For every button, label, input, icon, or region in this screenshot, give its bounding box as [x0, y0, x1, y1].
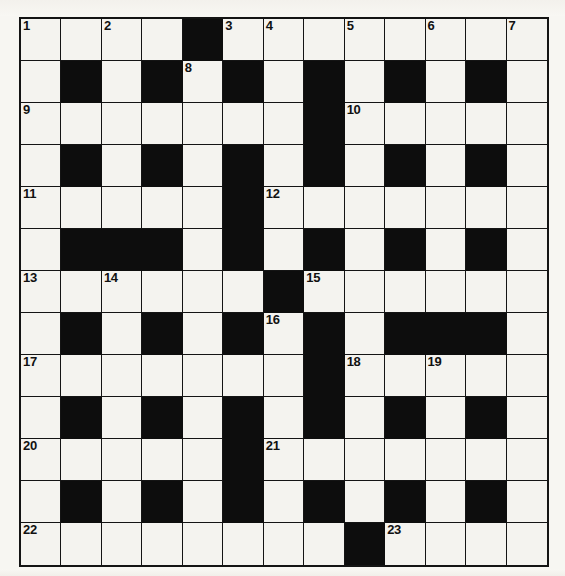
- grid-letter-cell[interactable]: [102, 397, 142, 439]
- grid-letter-cell[interactable]: [507, 61, 547, 103]
- grid-letter-cell[interactable]: [466, 439, 506, 481]
- grid-letter-cell[interactable]: 11: [21, 187, 61, 229]
- grid-letter-cell[interactable]: [385, 271, 425, 313]
- grid-letter-cell[interactable]: [264, 103, 304, 145]
- grid-letter-cell[interactable]: [345, 397, 385, 439]
- grid-letter-cell[interactable]: [21, 229, 61, 271]
- grid-letter-cell[interactable]: [183, 103, 223, 145]
- grid-letter-cell[interactable]: [183, 313, 223, 355]
- grid-letter-cell[interactable]: [385, 439, 425, 481]
- grid-letter-cell[interactable]: 2: [102, 19, 142, 61]
- grid-letter-cell[interactable]: [466, 355, 506, 397]
- grid-letter-cell[interactable]: [345, 145, 385, 187]
- grid-letter-cell[interactable]: 18: [345, 355, 385, 397]
- grid-letter-cell[interactable]: [345, 481, 385, 523]
- grid-letter-cell[interactable]: 7: [507, 19, 547, 61]
- crossword-grid[interactable]: 1234567891011121314151617181920212223: [19, 17, 549, 567]
- grid-letter-cell[interactable]: [426, 187, 466, 229]
- grid-letter-cell[interactable]: [264, 229, 304, 271]
- grid-letter-cell[interactable]: [61, 187, 101, 229]
- grid-letter-cell[interactable]: [142, 19, 182, 61]
- grid-letter-cell[interactable]: 4: [264, 19, 304, 61]
- grid-letter-cell[interactable]: [426, 523, 466, 565]
- grid-letter-cell[interactable]: [102, 439, 142, 481]
- grid-letter-cell[interactable]: [466, 187, 506, 229]
- grid-letter-cell[interactable]: [304, 439, 344, 481]
- grid-letter-cell[interactable]: [385, 187, 425, 229]
- grid-letter-cell[interactable]: [466, 103, 506, 145]
- grid-letter-cell[interactable]: [142, 355, 182, 397]
- grid-letter-cell[interactable]: [264, 397, 304, 439]
- grid-letter-cell[interactable]: 6: [426, 19, 466, 61]
- grid-letter-cell[interactable]: [21, 481, 61, 523]
- grid-letter-cell[interactable]: [385, 103, 425, 145]
- grid-letter-cell[interactable]: [61, 19, 101, 61]
- grid-letter-cell[interactable]: [183, 397, 223, 439]
- grid-letter-cell[interactable]: [466, 19, 506, 61]
- grid-letter-cell[interactable]: [223, 523, 263, 565]
- grid-letter-cell[interactable]: 3: [223, 19, 263, 61]
- grid-letter-cell[interactable]: [507, 229, 547, 271]
- grid-letter-cell[interactable]: [183, 271, 223, 313]
- grid-letter-cell[interactable]: [507, 439, 547, 481]
- grid-letter-cell[interactable]: [183, 187, 223, 229]
- grid-letter-cell[interactable]: [264, 145, 304, 187]
- grid-letter-cell[interactable]: [345, 61, 385, 103]
- grid-letter-cell[interactable]: [183, 145, 223, 187]
- grid-letter-cell[interactable]: [21, 145, 61, 187]
- grid-letter-cell[interactable]: 8: [183, 61, 223, 103]
- grid-letter-cell[interactable]: 15: [304, 271, 344, 313]
- grid-letter-cell[interactable]: 20: [21, 439, 61, 481]
- grid-letter-cell[interactable]: 21: [264, 439, 304, 481]
- grid-letter-cell[interactable]: [102, 103, 142, 145]
- grid-letter-cell[interactable]: [183, 481, 223, 523]
- grid-letter-cell[interactable]: [142, 271, 182, 313]
- grid-letter-cell[interactable]: [21, 313, 61, 355]
- grid-letter-cell[interactable]: [142, 103, 182, 145]
- grid-letter-cell[interactable]: [345, 229, 385, 271]
- grid-letter-cell[interactable]: [264, 523, 304, 565]
- grid-letter-cell[interactable]: [102, 355, 142, 397]
- grid-letter-cell[interactable]: [142, 523, 182, 565]
- grid-letter-cell[interactable]: [507, 481, 547, 523]
- grid-letter-cell[interactable]: [426, 481, 466, 523]
- grid-letter-cell[interactable]: [304, 523, 344, 565]
- grid-letter-cell[interactable]: [102, 523, 142, 565]
- grid-letter-cell[interactable]: [385, 19, 425, 61]
- grid-letter-cell[interactable]: [507, 145, 547, 187]
- grid-letter-cell[interactable]: [223, 103, 263, 145]
- grid-letter-cell[interactable]: [102, 61, 142, 103]
- grid-letter-cell[interactable]: 17: [21, 355, 61, 397]
- grid-letter-cell[interactable]: [61, 103, 101, 145]
- grid-letter-cell[interactable]: [426, 229, 466, 271]
- grid-letter-cell[interactable]: [385, 355, 425, 397]
- grid-letter-cell[interactable]: [61, 523, 101, 565]
- grid-letter-cell[interactable]: [223, 271, 263, 313]
- grid-letter-cell[interactable]: 23: [385, 523, 425, 565]
- grid-letter-cell[interactable]: [426, 271, 466, 313]
- grid-letter-cell[interactable]: [507, 103, 547, 145]
- grid-letter-cell[interactable]: [304, 19, 344, 61]
- grid-letter-cell[interactable]: [142, 187, 182, 229]
- grid-letter-cell[interactable]: [264, 61, 304, 103]
- grid-letter-cell[interactable]: 14: [102, 271, 142, 313]
- grid-letter-cell[interactable]: [507, 355, 547, 397]
- grid-letter-cell[interactable]: 10: [345, 103, 385, 145]
- grid-letter-cell[interactable]: [426, 397, 466, 439]
- grid-letter-cell[interactable]: [102, 187, 142, 229]
- grid-letter-cell[interactable]: [183, 229, 223, 271]
- grid-letter-cell[interactable]: [61, 355, 101, 397]
- grid-letter-cell[interactable]: 12: [264, 187, 304, 229]
- grid-letter-cell[interactable]: 13: [21, 271, 61, 313]
- grid-letter-cell[interactable]: [142, 439, 182, 481]
- grid-letter-cell[interactable]: [21, 61, 61, 103]
- grid-letter-cell[interactable]: [264, 355, 304, 397]
- grid-letter-cell[interactable]: 19: [426, 355, 466, 397]
- grid-letter-cell[interactable]: [345, 187, 385, 229]
- grid-letter-cell[interactable]: [345, 313, 385, 355]
- grid-letter-cell[interactable]: [102, 313, 142, 355]
- grid-letter-cell[interactable]: [426, 103, 466, 145]
- grid-letter-cell[interactable]: [61, 271, 101, 313]
- grid-letter-cell[interactable]: [21, 397, 61, 439]
- grid-letter-cell[interactable]: [345, 271, 385, 313]
